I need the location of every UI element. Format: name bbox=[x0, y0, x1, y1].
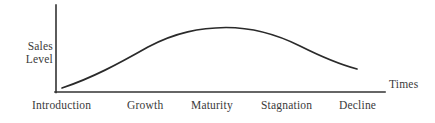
y-axis-label-line2: Level bbox=[8, 53, 53, 66]
stage-label-stagnation: Stagnation bbox=[261, 99, 312, 112]
y-axis-label-line1: Sales bbox=[8, 40, 53, 53]
product-life-cycle-diagram: Sales Level Times Introduction Growth Ma… bbox=[0, 0, 435, 123]
stage-label-decline: Decline bbox=[339, 99, 376, 112]
stage-label-introduction: Introduction bbox=[32, 99, 91, 112]
stage-label-maturity: Maturity bbox=[191, 99, 233, 112]
stage-label-growth: Growth bbox=[127, 99, 163, 112]
x-axis-label: Times bbox=[389, 78, 418, 91]
sales-level-curve bbox=[62, 28, 357, 89]
y-axis-label: Sales Level bbox=[8, 40, 53, 65]
